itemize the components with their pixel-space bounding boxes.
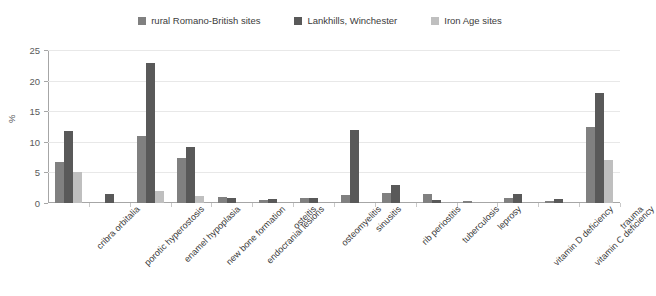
bar-group [130, 50, 171, 203]
legend-item[interactable]: Iron Age sites [431, 16, 502, 26]
bar[interactable] [432, 200, 441, 203]
bar[interactable] [137, 136, 146, 203]
bar[interactable] [513, 194, 522, 203]
y-axis-tick-label: 20 [29, 75, 40, 86]
bar[interactable] [73, 172, 82, 203]
bar-group [375, 50, 416, 203]
bar[interactable] [554, 199, 563, 203]
x-axis-category-label: rib periostitis [420, 204, 463, 247]
legend-item[interactable]: Lankhills, Winchester [294, 16, 397, 26]
chart-legend: rural Romano-British sitesLankhills, Win… [0, 16, 640, 26]
bar-group [538, 50, 579, 203]
bar-group [89, 50, 130, 203]
bar-group [334, 50, 375, 203]
bar-group [211, 50, 252, 203]
y-axis-title: % [6, 115, 17, 123]
bar[interactable] [268, 199, 277, 203]
y-axis-tick-label: 5 [35, 167, 40, 178]
bar[interactable] [309, 198, 318, 204]
bar[interactable] [177, 158, 186, 203]
legend-swatch-icon [294, 17, 302, 25]
bar[interactable] [463, 201, 472, 203]
y-axis-tick-label: 10 [29, 136, 40, 147]
bar[interactable] [155, 191, 164, 203]
bar[interactable] [105, 194, 114, 203]
bar[interactable] [350, 130, 359, 203]
bar-group [416, 50, 457, 203]
bar[interactable] [300, 198, 309, 203]
bar[interactable] [195, 196, 204, 203]
bar[interactable] [595, 93, 604, 203]
bar-group [579, 50, 620, 203]
bar[interactable] [382, 193, 391, 203]
bar[interactable] [545, 201, 554, 203]
bar[interactable] [227, 198, 236, 204]
x-axis-tick [620, 203, 621, 207]
x-axis-category-label: cribra orbitalia [95, 204, 142, 251]
legend-item-label: Lankhills, Winchester [307, 16, 397, 26]
y-axis-tick-label: 15 [29, 106, 40, 117]
bar[interactable] [146, 63, 155, 203]
bar[interactable] [504, 198, 513, 203]
bar[interactable] [64, 131, 73, 203]
bar[interactable] [423, 194, 432, 203]
x-axis-labels: cribra orbitaliaporotic hyperostosisenam… [48, 204, 620, 296]
bar[interactable] [55, 162, 64, 203]
bar[interactable] [341, 195, 350, 203]
legend-item[interactable]: rural Romano-British sites [138, 16, 260, 26]
bar[interactable] [259, 200, 268, 203]
x-axis-category-label: leprosy [495, 204, 523, 232]
bar-group [293, 50, 334, 203]
legend-item-label: Iron Age sites [444, 16, 502, 26]
legend-swatch-icon [431, 17, 439, 25]
legend-item-label: rural Romano-British sites [151, 16, 260, 26]
bar[interactable] [218, 197, 227, 203]
y-axis-tick-label: 25 [29, 45, 40, 56]
bar-group [252, 50, 293, 203]
bar-group [497, 50, 538, 203]
bar[interactable] [391, 185, 400, 203]
bar[interactable] [586, 127, 595, 204]
x-axis-category-label: porotic hyperostosis [143, 204, 207, 268]
bar-group [457, 50, 498, 203]
bar[interactable] [604, 160, 613, 203]
bar-group [48, 50, 89, 203]
plot-area: 0510152025 [48, 50, 620, 203]
y-axis-tick-label: 0 [35, 198, 40, 209]
bar[interactable] [186, 147, 195, 203]
bar-group [171, 50, 212, 203]
legend-swatch-icon [138, 17, 146, 25]
